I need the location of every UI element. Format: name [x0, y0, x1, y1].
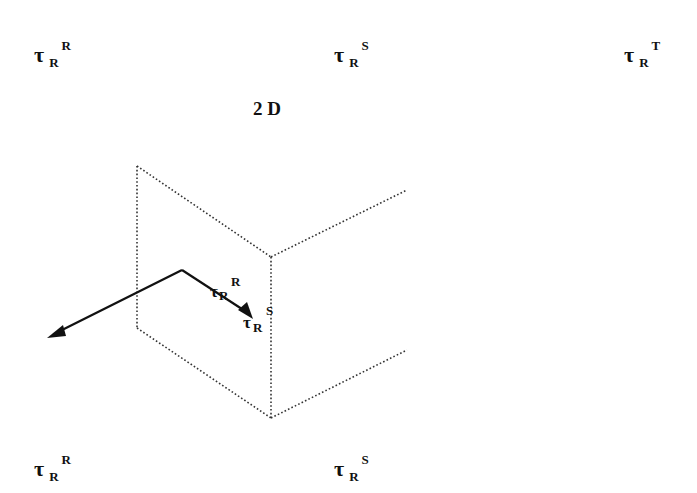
label-bottom-tau-r-s: τRS	[334, 458, 369, 480]
superscript: S	[362, 452, 369, 467]
inner-label-tau-r-r-sub: R	[219, 289, 228, 302]
subscript: R	[49, 469, 58, 484]
inner-label-tau-r-r-symbol: τ	[210, 283, 218, 300]
subscript: R	[349, 469, 358, 484]
incident-ray-arrow	[58, 270, 182, 332]
inner-label-tau-r-s-sub: R	[253, 321, 262, 334]
interface-diagram	[0, 0, 697, 493]
inner-label-tau-r-s-symbol: τ	[243, 314, 251, 331]
interface-plane-right	[271, 190, 407, 418]
arrowhead-left-icon	[47, 325, 66, 338]
label-bottom-tau-r-r: τRR	[34, 458, 71, 480]
superscript: R	[62, 452, 71, 467]
inner-label-tau-r-s-sup: S	[266, 304, 273, 317]
ray-arrows	[58, 270, 245, 332]
inner-label-tau-r-r-sup: R	[231, 275, 240, 288]
tau-symbol: τ	[334, 456, 344, 481]
tau-symbol: τ	[34, 456, 44, 481]
interface-plane-left	[137, 166, 271, 418]
